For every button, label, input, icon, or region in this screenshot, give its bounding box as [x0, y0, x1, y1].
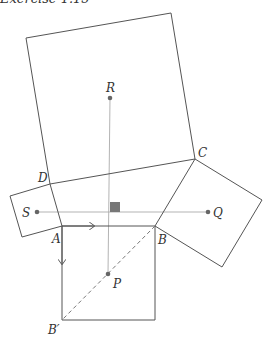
label-d: D — [37, 171, 48, 185]
point-r — [108, 96, 113, 101]
point-q — [206, 210, 211, 215]
point-p — [106, 272, 111, 277]
quadrilateral-squares-diagram: R S Q P A B C D B′ — [0, 0, 271, 343]
point-s — [35, 210, 40, 215]
guide-line-rp — [108, 98, 110, 274]
label-b-prime: B′ — [47, 323, 60, 337]
label-b: B — [157, 233, 167, 247]
label-p: P — [112, 277, 122, 291]
label-s: S — [22, 206, 30, 220]
label-a: A — [51, 232, 61, 246]
label-q: Q — [213, 206, 223, 220]
right-angle-marker — [110, 202, 120, 212]
label-c: C — [198, 146, 207, 160]
label-r: R — [105, 81, 115, 95]
